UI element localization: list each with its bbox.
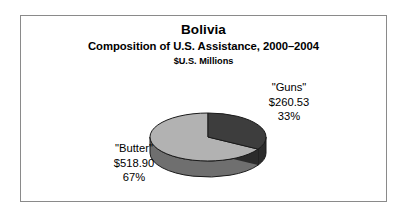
pie-label-butter-value: $518.90 <box>90 156 178 171</box>
chart-title: Bolivia <box>20 22 387 38</box>
pie-label-guns: "Guns" $260.53 33% <box>246 80 332 124</box>
pie-label-guns-percent: 33% <box>246 109 332 124</box>
pie-label-guns-value: $260.53 <box>246 95 332 110</box>
pie-label-butter-percent: 67% <box>90 170 178 185</box>
chart-canvas: Bolivia Composition of U.S. Assistance, … <box>0 0 407 217</box>
chart-title-block: Bolivia Composition of U.S. Assistance, … <box>20 22 387 68</box>
pie-label-guns-name: "Guns" <box>246 80 332 95</box>
chart-units-label: $U.S. Millions <box>20 55 387 68</box>
pie-label-butter: "Butter" $518.90 67% <box>90 141 178 185</box>
chart-subtitle: Composition of U.S. Assistance, 2000–200… <box>20 39 387 54</box>
pie-label-butter-name: "Butter" <box>90 141 178 156</box>
